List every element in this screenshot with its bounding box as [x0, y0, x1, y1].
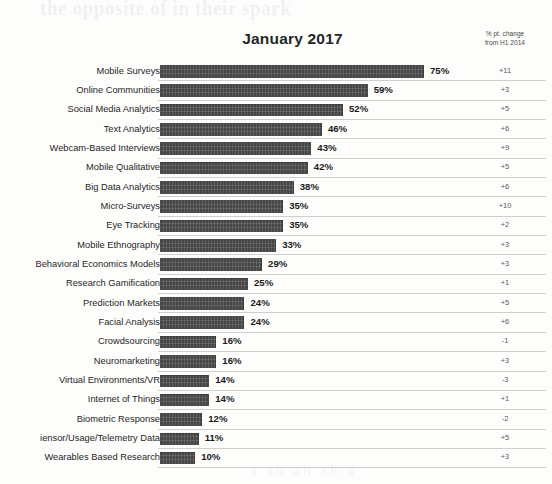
bar [160, 239, 276, 252]
bar [160, 452, 195, 465]
bar-row: Eye Tracking35%+2 [0, 217, 552, 236]
bar-row: iensor/Usage/Telemetry Data11%+5 [0, 430, 552, 449]
bar-rows: Mobile Surveys75%+11Online Communities59… [0, 62, 552, 468]
category-label: Wearables Based Research [0, 451, 160, 463]
bar-value-label: 33% [282, 239, 301, 250]
bar-row: Wearables Based Research10%+3 [0, 449, 552, 468]
category-label: Prediction Markets [0, 297, 160, 309]
category-label: Mobile Ethnography [0, 239, 160, 251]
bar-row: Internet of Things14%+1 [0, 391, 552, 410]
category-label: Big Data Analytics [0, 181, 160, 193]
delta-value: +5 [462, 298, 548, 307]
bar-value-label: 52% [349, 103, 368, 114]
bar [160, 162, 308, 175]
bar-row: Mobile Qualitative42%+5 [0, 159, 552, 178]
bar [160, 316, 244, 329]
bar-value-label: 59% [374, 84, 393, 95]
bar-value-label: 25% [254, 277, 273, 288]
delta-value: +5 [462, 104, 548, 113]
bar-row: Micro-Surveys35%+10 [0, 197, 552, 216]
bar [160, 200, 283, 213]
category-label: iensor/Usage/Telemetry Data [0, 432, 160, 444]
category-label: Internet of Things [0, 393, 160, 405]
bar-row: Facial Analysis24%+6 [0, 313, 552, 332]
category-label: Facial Analysis [0, 316, 160, 328]
bar-value-label: 75% [430, 65, 449, 76]
bar-value-label: 16% [222, 355, 241, 366]
bar-value-label: 12% [208, 413, 227, 424]
bar-row: Virtual Environments/VR14%-3 [0, 372, 552, 391]
bar-value-label: 38% [300, 181, 319, 192]
bar-row: Neuromarketing16%+3 [0, 352, 552, 371]
bar-value-label: 43% [317, 142, 336, 153]
bar-row: Online Communities59%+3 [0, 81, 552, 100]
delta-value: -1 [462, 336, 548, 345]
delta-value: +5 [462, 162, 548, 171]
bar-row: Text Analytics46%+6 [0, 120, 552, 139]
bar-value-label: 10% [201, 451, 220, 462]
category-label: Neuromarketing [0, 355, 160, 367]
bar [160, 297, 244, 310]
bar [160, 413, 202, 426]
delta-value: +3 [462, 259, 548, 268]
bar [160, 278, 248, 291]
bar [160, 394, 209, 407]
delta-column-header: % pt. change from H1 2014 [462, 30, 548, 47]
bar-value-label: 35% [289, 200, 308, 211]
delta-value: +1 [462, 278, 548, 287]
bar-row: Crowdsourcing16%-1 [0, 333, 552, 352]
bar [160, 65, 424, 78]
bar [160, 181, 294, 194]
bar [160, 433, 199, 446]
bar [160, 220, 283, 233]
bar [160, 84, 368, 97]
delta-value: +6 [462, 124, 548, 133]
delta-value: +10 [462, 201, 548, 210]
bar [160, 104, 343, 117]
delta-value: +3 [462, 85, 548, 94]
bar [160, 258, 262, 271]
bar-row: Webcam-Based Interviews43%+9 [0, 139, 552, 158]
category-label: Text Analytics [0, 123, 160, 135]
bar [160, 123, 322, 136]
category-label: Crowdsourcing [0, 335, 160, 347]
bar-row: Prediction Markets24%+5 [0, 294, 552, 313]
category-label: Virtual Environments/VR [0, 374, 160, 386]
chart-title: January 2017 [160, 30, 425, 48]
delta-value: +11 [462, 66, 548, 75]
bar-value-label: 14% [215, 374, 234, 385]
bar [160, 336, 216, 349]
row-separator [158, 467, 546, 468]
bar-value-label: 46% [328, 123, 347, 134]
bar-value-label: 24% [250, 316, 269, 327]
delta-value: +6 [462, 182, 548, 191]
delta-column-header-line2: from H1 2014 [462, 39, 548, 48]
bar-row: Big Data Analytics38%+6 [0, 178, 552, 197]
category-label: Behavioral Economics Models [0, 258, 160, 270]
bar-value-label: 16% [222, 335, 241, 346]
bar [160, 375, 209, 388]
bar-row: Behavioral Economics Models29%+3 [0, 255, 552, 274]
category-label: Online Communities [0, 84, 160, 96]
bar-row: Mobile Ethnography33%+3 [0, 236, 552, 255]
bar-value-label: 42% [314, 161, 333, 172]
bar-row: Research Gamification25%+1 [0, 275, 552, 294]
category-label: Mobile Surveys [0, 65, 160, 77]
delta-value: +3 [462, 356, 548, 365]
category-label: Biometric Response [0, 413, 160, 425]
delta-value: +5 [462, 433, 548, 442]
bar-value-label: 29% [268, 258, 287, 269]
bar-row: Social Media Analytics52%+5 [0, 101, 552, 120]
delta-value: +9 [462, 143, 548, 152]
category-label: Micro-Surveys [0, 200, 160, 212]
delta-value: +2 [462, 220, 548, 229]
bar [160, 355, 216, 368]
category-label: Research Gamification [0, 277, 160, 289]
scan-bleedthrough-top: the opposite of in their spark [40, 0, 510, 33]
bar-row: Biometric Response12%-2 [0, 410, 552, 429]
category-label: Mobile Qualitative [0, 161, 160, 173]
category-label: Webcam-Based Interviews [0, 142, 160, 154]
bar [160, 142, 311, 155]
bar-row: Mobile Surveys75%+11 [0, 62, 552, 81]
bar-value-label: 14% [215, 393, 234, 404]
